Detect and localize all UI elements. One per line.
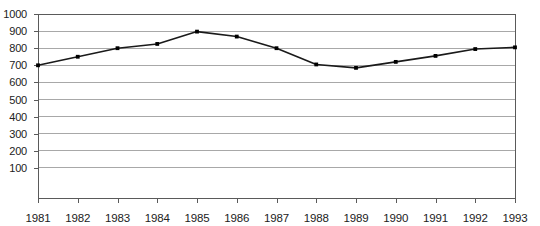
x-axis-label-1993: 1993	[503, 212, 528, 224]
x-axis-label-1992: 1992	[463, 212, 488, 224]
x-axis-tick-labels: 1981198219831984198519861987198819891990…	[0, 0, 540, 226]
x-axis-label-1988: 1988	[304, 212, 329, 224]
x-axis-label-1990: 1990	[383, 212, 408, 224]
x-axis-label-1982: 1982	[65, 212, 90, 224]
x-axis-label-1981: 1981	[26, 212, 51, 224]
x-axis-label-1985: 1985	[185, 212, 210, 224]
line-chart: 1002003004005006007008009001000 19811982…	[0, 0, 540, 226]
x-axis-label-1986: 1986	[224, 212, 249, 224]
x-axis-label-1984: 1984	[145, 212, 170, 224]
x-axis-label-1983: 1983	[105, 212, 130, 224]
x-axis-label-1991: 1991	[423, 212, 448, 224]
x-axis-label-1987: 1987	[264, 212, 289, 224]
x-axis-label-1989: 1989	[344, 212, 369, 224]
